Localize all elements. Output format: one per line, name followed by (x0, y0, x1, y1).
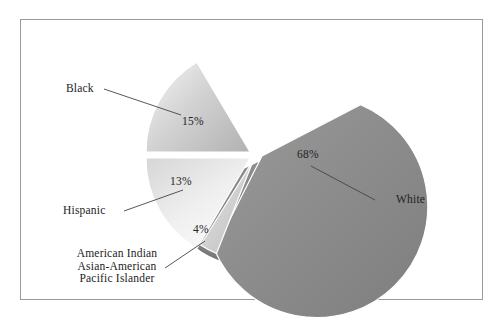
category-label-other-line-1: American Indian (56, 247, 178, 260)
pie-slice-black[interactable] (146, 62, 250, 152)
pie-chart-figure: Black Hispanic White American Indian Asi… (0, 0, 502, 318)
value-label-black: 15% (182, 115, 204, 127)
value-label-hispanic: 13% (170, 175, 192, 187)
category-label-american-indian-asian-american-pacific-islander: American Indian Asian-American Pacific I… (56, 247, 178, 285)
category-label-white: White (396, 193, 425, 205)
value-label-white: 68% (297, 148, 319, 160)
category-label-hispanic: Hispanic (63, 204, 105, 216)
category-label-other-line-3: Pacific Islander (56, 272, 178, 285)
category-label-black: Black (66, 82, 94, 94)
pie-slice-white[interactable] (215, 105, 428, 318)
value-label-other: 4% (193, 223, 209, 235)
category-label-other-line-2: Asian-American (56, 260, 178, 273)
